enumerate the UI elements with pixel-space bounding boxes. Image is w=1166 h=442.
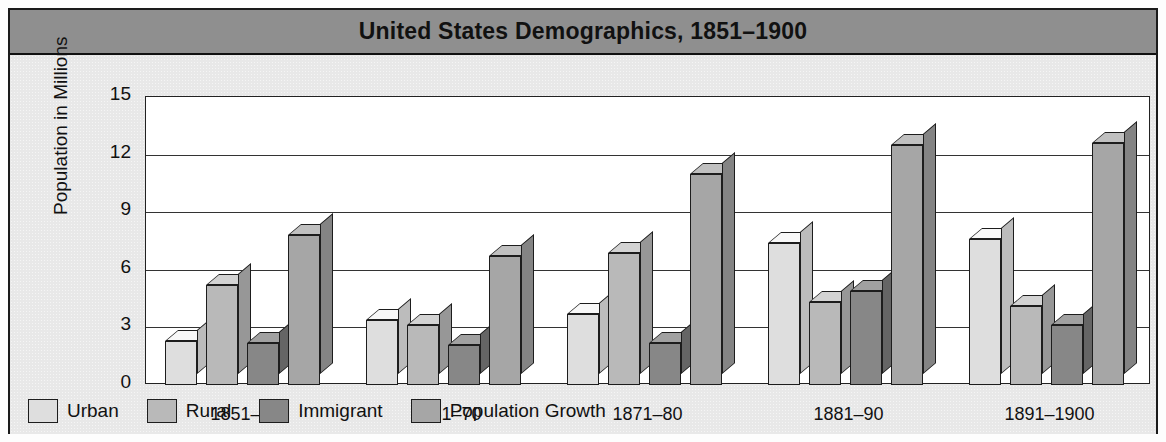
- bar-population-growth: [891, 145, 923, 385]
- bar-front-face: [288, 235, 320, 385]
- bar-rural: [608, 253, 640, 385]
- bar-front-face: [1010, 306, 1042, 385]
- legend-item-rural[interactable]: Rural: [147, 399, 231, 423]
- gridline: [146, 155, 1149, 156]
- legend-label: Immigrant: [298, 400, 382, 422]
- y-tick-label: 12: [91, 141, 131, 163]
- legend-swatch-icon: [411, 399, 441, 423]
- bar-population-growth: [690, 174, 722, 385]
- bar-side-face: [722, 152, 735, 374]
- y-tick-label: 3: [91, 313, 131, 335]
- y-axis-label: Population in Millions: [50, 0, 72, 215]
- bar-front-face: [407, 325, 439, 385]
- bar-immigrant: [649, 343, 681, 385]
- y-tick-label: 9: [91, 198, 131, 220]
- legend-label: Urban: [67, 400, 119, 422]
- bar-rural: [809, 302, 841, 385]
- bar-front-face: [809, 302, 841, 385]
- bar-front-face: [1092, 143, 1124, 385]
- bar-front-face: [366, 320, 398, 385]
- bar-front-face: [1051, 325, 1083, 385]
- bar-urban: [165, 341, 197, 385]
- legend-swatch-icon: [147, 399, 177, 423]
- bar-front-face: [165, 341, 197, 385]
- chart-body: Population in Millions 03691215 1851–601…: [10, 55, 1156, 434]
- bar-front-face: [448, 345, 480, 385]
- figure-frame: United States Demographics, 1851–1900 Po…: [8, 8, 1158, 434]
- bar-population-growth: [1092, 143, 1124, 385]
- gridline: [146, 212, 1149, 213]
- chart-figure: United States Demographics, 1851–1900 Po…: [0, 0, 1166, 442]
- legend-label: Rural: [186, 400, 231, 422]
- legend-label: Population Growth: [450, 400, 606, 422]
- y-tick-label: 6: [91, 256, 131, 278]
- bar-front-face: [206, 285, 238, 385]
- bar-urban: [768, 243, 800, 385]
- bar-front-face: [891, 145, 923, 385]
- bar-immigrant: [448, 345, 480, 385]
- bar-side-face: [1124, 121, 1137, 374]
- legend-swatch-icon: [28, 399, 58, 423]
- bar-front-face: [690, 174, 722, 385]
- bar-urban: [567, 314, 599, 385]
- y-tick-label: 15: [91, 83, 131, 105]
- bar-side-face: [320, 213, 333, 374]
- bar-side-face: [521, 234, 534, 374]
- bar-population-growth: [489, 256, 521, 385]
- legend-item-immigrant[interactable]: Immigrant: [259, 399, 382, 423]
- bar-immigrant: [850, 291, 882, 385]
- bar-rural: [1010, 306, 1042, 385]
- bar-front-face: [649, 343, 681, 385]
- bar-immigrant: [1051, 325, 1083, 385]
- chart-title: United States Demographics, 1851–1900: [359, 18, 807, 45]
- bar-rural: [407, 325, 439, 385]
- bar-urban: [969, 239, 1001, 385]
- chart-legend: UrbanRuralImmigrantPopulation Growth: [28, 396, 634, 426]
- plot-wrapper: Population in Millions 03691215 1851–601…: [10, 55, 1156, 434]
- bar-population-growth: [288, 235, 320, 385]
- x-tick-label: 1891–1900: [949, 404, 1150, 425]
- bar-front-face: [768, 243, 800, 385]
- bar-front-face: [969, 239, 1001, 385]
- x-tick-label: 1881–90: [748, 404, 949, 425]
- y-axis-label-holder: Population in Millions: [62, 115, 92, 375]
- bar-side-face: [923, 123, 936, 374]
- legend-swatch-icon: [259, 399, 289, 423]
- legend-item-population-growth[interactable]: Population Growth: [411, 399, 606, 423]
- bar-front-face: [247, 343, 279, 385]
- bar-front-face: [567, 314, 599, 385]
- legend-item-urban[interactable]: Urban: [28, 399, 119, 423]
- bar-front-face: [489, 256, 521, 385]
- bar-urban: [366, 320, 398, 385]
- bar-rural: [206, 285, 238, 385]
- bar-immigrant: [247, 343, 279, 385]
- bar-front-face: [850, 291, 882, 385]
- plot-area: [145, 96, 1150, 384]
- bar-front-face: [608, 253, 640, 385]
- title-band: United States Demographics, 1851–1900: [10, 10, 1156, 55]
- y-tick-label: 0: [91, 371, 131, 393]
